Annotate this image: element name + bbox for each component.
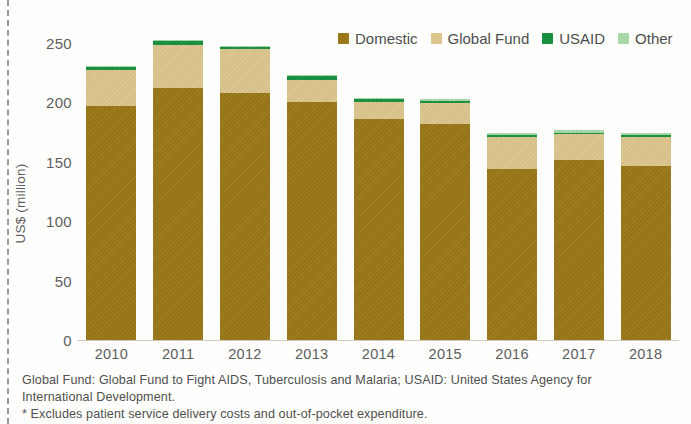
segment-global-fund-2016 bbox=[487, 137, 537, 169]
y-tick-250: 250 bbox=[46, 35, 72, 52]
bar-2018 bbox=[621, 30, 671, 340]
legend-swatch-icon bbox=[618, 33, 629, 44]
y-tick-200: 200 bbox=[46, 94, 72, 111]
y-axis: US$ (million) 250 200 150 100 50 0 bbox=[0, 0, 72, 424]
y-tick-50: 50 bbox=[55, 273, 72, 290]
footnote-line-2: International Development. bbox=[22, 389, 672, 406]
chart-legend: DomesticGlobal FundUSAIDOther bbox=[338, 30, 673, 47]
x-tick-2018: 2018 bbox=[629, 346, 662, 362]
bar-2017 bbox=[554, 30, 604, 340]
x-tick-2012: 2012 bbox=[228, 346, 261, 362]
legend-item-other[interactable]: Other bbox=[618, 30, 673, 47]
bar-2014 bbox=[354, 30, 404, 340]
legend-label: Domestic bbox=[355, 30, 418, 47]
legend-swatch-icon bbox=[542, 33, 553, 44]
y-tick-100: 100 bbox=[46, 213, 72, 230]
segment-global-fund-2011 bbox=[153, 45, 203, 88]
y-tick-0: 0 bbox=[63, 332, 72, 349]
x-tick-2013: 2013 bbox=[295, 346, 328, 362]
segment-domestic-2016 bbox=[487, 169, 537, 340]
legend-item-global-fund[interactable]: Global Fund bbox=[431, 30, 530, 47]
segment-domestic-2017 bbox=[554, 160, 604, 340]
x-tick-2010: 2010 bbox=[95, 346, 128, 362]
x-tick-2016: 2016 bbox=[495, 346, 528, 362]
footnotes: Global Fund: Global Fund to Fight AIDS, … bbox=[22, 372, 672, 423]
segment-global-fund-2012 bbox=[220, 49, 270, 94]
segment-domestic-2015 bbox=[420, 124, 470, 340]
segment-domestic-2014 bbox=[354, 119, 404, 340]
x-axis-labels: 201020112012201320142015201620172018 bbox=[78, 346, 679, 370]
bar-2013 bbox=[287, 30, 337, 340]
y-axis-title: US$ (million) bbox=[13, 144, 28, 264]
bar-2015 bbox=[420, 30, 470, 340]
segment-global-fund-2014 bbox=[354, 102, 404, 119]
legend-label: USAID bbox=[559, 30, 605, 47]
x-tick-2017: 2017 bbox=[562, 346, 595, 362]
x-tick-2011: 2011 bbox=[162, 346, 194, 362]
segment-global-fund-2010 bbox=[86, 70, 136, 106]
x-tick-2015: 2015 bbox=[429, 346, 462, 362]
segment-domestic-2010 bbox=[86, 106, 136, 340]
legend-item-domestic[interactable]: Domestic bbox=[338, 30, 418, 47]
legend-item-usaid[interactable]: USAID bbox=[542, 30, 605, 47]
bar-2012 bbox=[220, 30, 270, 340]
segment-global-fund-2013 bbox=[287, 80, 337, 102]
y-tick-150: 150 bbox=[46, 154, 72, 171]
segment-domestic-2011 bbox=[153, 88, 203, 340]
legend-label: Global Fund bbox=[448, 30, 530, 47]
footnote-line-3: * Excludes patient service delivery cost… bbox=[22, 406, 672, 423]
segment-global-fund-2017 bbox=[554, 134, 604, 160]
segment-domestic-2013 bbox=[287, 102, 337, 340]
bar-2016 bbox=[487, 30, 537, 340]
segment-global-fund-2015 bbox=[420, 103, 470, 124]
x-tick-2014: 2014 bbox=[362, 346, 395, 362]
segment-global-fund-2018 bbox=[621, 137, 671, 167]
bar-2010 bbox=[86, 30, 136, 340]
bar-2011 bbox=[153, 30, 203, 340]
footnote-line-1: Global Fund: Global Fund to Fight AIDS, … bbox=[22, 372, 672, 389]
plot-area bbox=[78, 30, 679, 340]
legend-swatch-icon bbox=[338, 33, 349, 44]
chart-page: US$ (million) 250 200 150 100 50 0 20102… bbox=[0, 0, 691, 424]
x-axis-baseline bbox=[78, 340, 679, 341]
legend-label: Other bbox=[635, 30, 673, 47]
legend-swatch-icon bbox=[431, 33, 442, 44]
segment-domestic-2012 bbox=[220, 93, 270, 340]
segment-domestic-2018 bbox=[621, 166, 671, 340]
